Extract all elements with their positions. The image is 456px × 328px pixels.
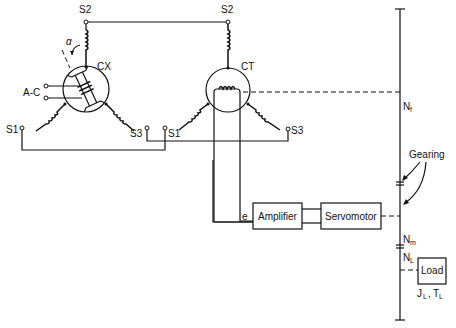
- ct-s2-winding-icon: [228, 24, 230, 68]
- svg-text:L: L: [423, 293, 427, 300]
- cx-s1-winding-icon: [36, 104, 65, 131]
- cx-synchro-transmitter: S2 A-C α CX S1 S3: [6, 4, 149, 139]
- servomotor-label: Servomotor: [325, 211, 377, 222]
- cx-s1-label: S1: [6, 124, 19, 135]
- svg-text:f: f: [410, 106, 412, 113]
- ct-s1-label: S1: [168, 128, 181, 139]
- ct-stator-circle: [206, 68, 250, 112]
- cx-s3-label: S3: [130, 128, 143, 139]
- load-params: J L , T L: [417, 288, 443, 300]
- svg-text:J: J: [417, 288, 422, 299]
- svg-text:L: L: [410, 257, 414, 264]
- gearing-label: Gearing: [409, 149, 445, 160]
- svg-text:L: L: [439, 293, 443, 300]
- ct-rotor-leads: [214, 89, 240, 160]
- ct-s3-winding-icon: [248, 104, 280, 130]
- ct-s1-terminal[interactable]: [163, 126, 167, 130]
- svg-text:m: m: [410, 239, 416, 246]
- synchro-servo-diagram: S2 A-C α CX S1 S3: [0, 0, 456, 328]
- cx-angle-arrow-icon: [72, 45, 80, 55]
- ct-s1-winding-icon: [179, 104, 208, 130]
- cx-ac-terminal-1[interactable]: [44, 84, 48, 88]
- cx-s3-winding-icon: [106, 104, 134, 131]
- cx-s1-terminal[interactable]: [20, 126, 24, 130]
- ct-s2-label: S2: [221, 4, 234, 15]
- error-signal-label: e: [242, 211, 248, 222]
- cx-label: CX: [97, 61, 111, 72]
- cx-angle-label: α: [66, 36, 72, 47]
- cx-ac-terminal-2[interactable]: [44, 96, 48, 100]
- cx-rotor-icon: [68, 66, 105, 112]
- cx-rotor-axis: [62, 50, 70, 68]
- cx-s3-terminal[interactable]: [145, 126, 149, 130]
- svg-text:,: ,: [428, 288, 431, 299]
- ct-control-transformer: S2 CT S1 S3: [163, 4, 400, 160]
- ct-s3-terminal[interactable]: [286, 127, 290, 131]
- output-shaft: N f N m N L: [395, 9, 416, 320]
- amplifier-label: Amplifier: [258, 211, 298, 222]
- ct-s3-label: S3: [291, 125, 304, 136]
- cx-ac-input-label: A-C: [23, 87, 40, 98]
- cx-s2-winding-icon: [86, 30, 88, 68]
- cx-s2-label: S2: [79, 4, 92, 15]
- cx-stator-circle: [63, 66, 109, 112]
- load-label: Load: [421, 265, 443, 276]
- ct-label: CT: [241, 61, 254, 72]
- gearing-arrow-upper-icon: [404, 162, 420, 179]
- s1-connection-wire: [22, 130, 165, 150]
